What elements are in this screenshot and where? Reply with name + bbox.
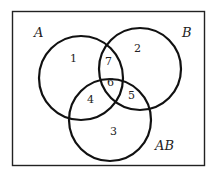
set-b-circle <box>99 28 181 110</box>
region-4-label: 4 <box>87 93 94 106</box>
region-7-label: 7 <box>105 55 112 68</box>
region-3-label: 3 <box>110 125 117 138</box>
region-1-label: 1 <box>70 52 77 65</box>
region-6-label: 6 <box>107 76 114 89</box>
set-a-label: A <box>33 25 43 40</box>
set-ab-label: AB <box>154 138 174 153</box>
region-2-label: 2 <box>134 42 141 55</box>
venn-diagram: A B AB 1 2 3 4 5 6 7 <box>0 0 217 173</box>
set-b-label: B <box>181 25 192 40</box>
region-5-label: 5 <box>128 89 135 102</box>
